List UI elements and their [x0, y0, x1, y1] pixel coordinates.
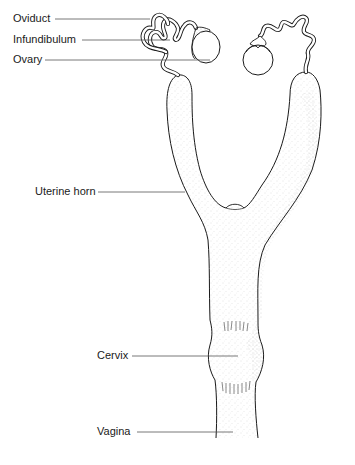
uterus-illustration — [0, 0, 355, 465]
uterus-body — [167, 72, 321, 438]
label-uterine-horn: Uterine horn — [35, 185, 96, 198]
label-vagina: Vagina — [97, 425, 130, 438]
label-cervix: Cervix — [97, 349, 128, 362]
label-infundibulum: Infundibulum — [13, 33, 76, 46]
left-ovary — [192, 31, 220, 63]
left-oviduct — [143, 15, 196, 75]
label-oviduct: Oviduct — [13, 12, 50, 25]
label-ovary: Ovary — [13, 53, 42, 66]
